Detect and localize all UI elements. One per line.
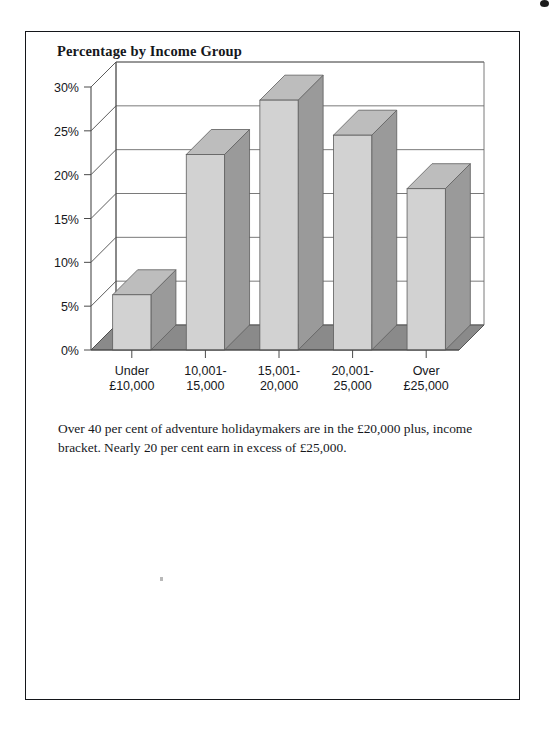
- scan-artifact-mark: [540, 0, 549, 7]
- x-axis-tick-label: £25,000: [404, 379, 449, 393]
- axis-depth-connector: [91, 281, 116, 306]
- axis-depth-connector: [91, 106, 116, 131]
- y-axis-tick-label: 10%: [54, 256, 79, 270]
- bar-front-face: [407, 189, 445, 350]
- bar-column: [333, 110, 396, 350]
- y-axis-tick-label: 20%: [54, 169, 79, 183]
- document-page: Percentage by Income Group 0%5%10%15%20%…: [25, 31, 520, 700]
- bar-column: [407, 164, 470, 350]
- x-axis-tick-label: £10,000: [109, 379, 154, 393]
- bar-side-face: [225, 130, 250, 350]
- x-axis-tick-label: Under: [115, 364, 149, 378]
- y-axis-tick-label: 0%: [61, 344, 79, 358]
- bar-front-face: [186, 155, 224, 350]
- bar-front-face: [113, 295, 151, 350]
- bar-side-face: [298, 75, 323, 350]
- y-axis-tick-label: 25%: [54, 125, 79, 139]
- x-axis-tick-label: 20,001-: [331, 364, 373, 378]
- bar-chart: 0%5%10%15%20%25%30%Under£10,00010,001-15…: [26, 32, 521, 407]
- axis-depth-connector: [91, 237, 116, 262]
- figure-caption: Over 40 per cent of adventure holidaymak…: [58, 420, 490, 457]
- scan-speck: [160, 577, 163, 581]
- axis-depth-connector: [91, 150, 116, 175]
- bar-column: [260, 75, 323, 350]
- axis-depth-connector: [91, 62, 116, 87]
- x-axis-tick-label: 15,001-: [258, 364, 300, 378]
- chart-canvas: 0%5%10%15%20%25%30%Under£10,00010,001-15…: [26, 32, 521, 407]
- x-axis-tick-label: 10,001-: [184, 364, 226, 378]
- axis-depth-connector: [91, 194, 116, 219]
- bar-front-face: [260, 100, 298, 350]
- y-axis-tick-label: 5%: [61, 300, 79, 314]
- bar-front-face: [333, 135, 371, 350]
- x-axis-tick-label: 15,000: [186, 379, 224, 393]
- x-axis-tick-label: 25,000: [333, 379, 371, 393]
- y-axis-tick-label: 30%: [54, 81, 79, 95]
- bar-side-face: [372, 110, 397, 350]
- x-axis-tick-label: 20,000: [260, 379, 298, 393]
- x-axis-tick-label: Over: [413, 364, 440, 378]
- y-axis-tick-label: 15%: [54, 213, 79, 227]
- bar-column: [186, 130, 249, 350]
- bar-side-face: [445, 164, 470, 350]
